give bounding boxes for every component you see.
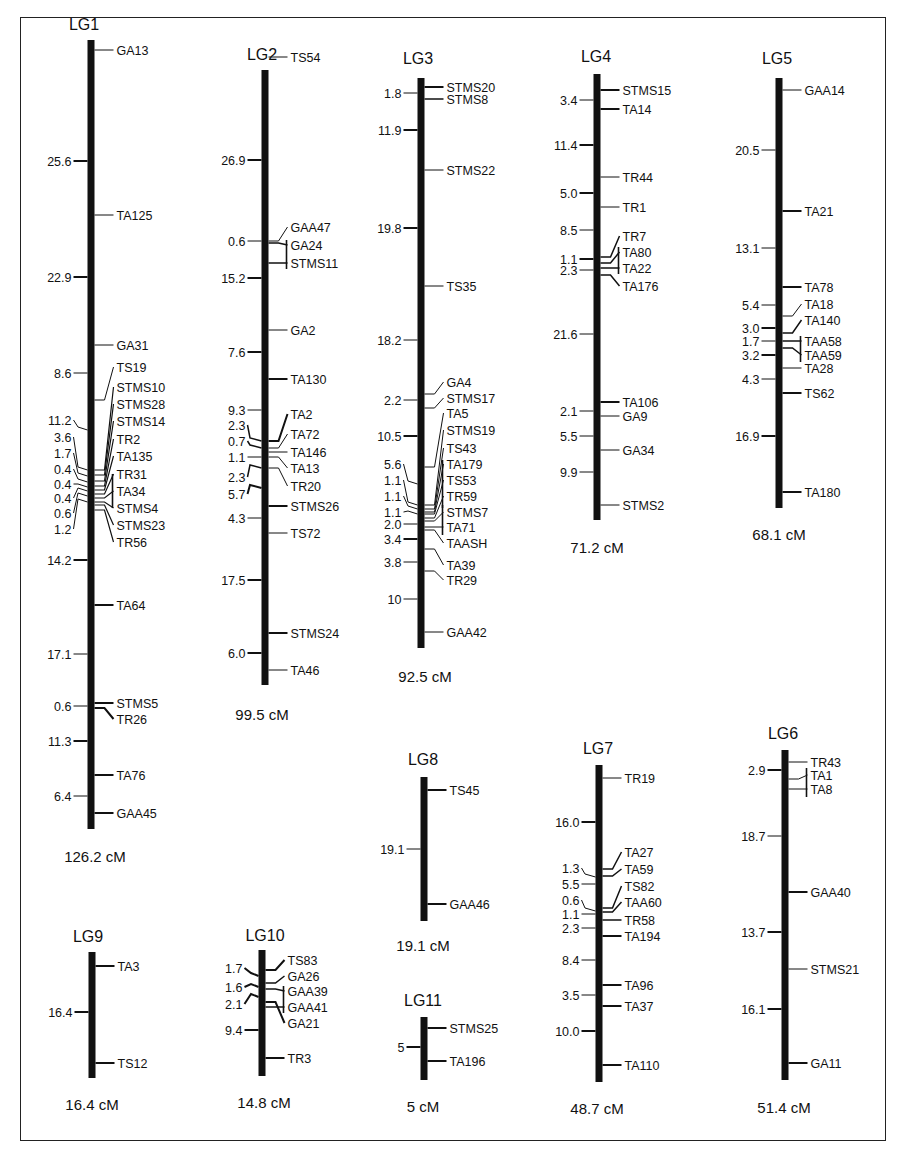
marker-label: TR58 bbox=[625, 914, 656, 928]
marker-label: TR1 bbox=[623, 201, 647, 215]
chromosome-bar bbox=[421, 1017, 428, 1080]
distance-label: 13.1 bbox=[735, 242, 759, 256]
distance-label: 1.1 bbox=[562, 908, 579, 922]
distance-connector bbox=[248, 465, 262, 477]
distance-label: 1.8 bbox=[384, 87, 401, 101]
marker-connector bbox=[603, 869, 622, 876]
distance-label: 16.4 bbox=[48, 1006, 72, 1020]
marker-label: STMS8 bbox=[447, 93, 489, 107]
distance-label: 0.4 bbox=[54, 463, 71, 477]
distance-label: 10 bbox=[388, 593, 402, 607]
marker-label: TAA58 bbox=[805, 335, 842, 349]
marker-label: TS12 bbox=[118, 1057, 148, 1071]
marker-label: TAA59 bbox=[805, 349, 842, 363]
group-total-length: 14.8 cM bbox=[237, 1094, 290, 1111]
marker-label: TA8 bbox=[811, 783, 833, 797]
distance-label: 11.4 bbox=[554, 139, 577, 153]
distance-label: 3.4 bbox=[560, 94, 577, 108]
distance-label: 13.7 bbox=[741, 926, 765, 940]
marker-connector bbox=[425, 413, 444, 467]
distance-label: 1.7 bbox=[54, 447, 71, 461]
distance-connector bbox=[248, 425, 262, 441]
group-total-length: 126.2 cM bbox=[64, 848, 126, 865]
marker-connector bbox=[95, 708, 114, 719]
marker-label: TA21 bbox=[805, 205, 834, 219]
distance-connector bbox=[74, 437, 88, 470]
marker-label: TA78 bbox=[805, 281, 834, 295]
marker-label: GAA45 bbox=[117, 807, 157, 821]
group-title: LG4 bbox=[581, 48, 611, 65]
marker-connector bbox=[266, 1002, 285, 1023]
marker-label: GA4 bbox=[447, 376, 472, 390]
marker-label: TR44 bbox=[623, 171, 654, 185]
marker-label: TA2 bbox=[291, 408, 313, 422]
marker-label: GA9 bbox=[623, 410, 648, 424]
marker-label: TS19 bbox=[117, 361, 147, 375]
distance-label: 0.4 bbox=[54, 492, 71, 506]
distance-label: 5 bbox=[398, 1041, 405, 1055]
linkage-group-lg8: LG819.1TS45GAA4619.1 cM bbox=[380, 751, 490, 954]
distance-label: 6.0 bbox=[228, 647, 245, 661]
marker-connector bbox=[425, 530, 444, 543]
distance-label: 5.7 bbox=[228, 488, 245, 502]
distance-connector bbox=[248, 441, 262, 448]
marker-label: TR29 bbox=[447, 574, 478, 588]
linkage-group-lg1: LG125.622.98.611.23.61.70.40.40.40.61.21… bbox=[47, 16, 165, 865]
marker-label: TR59 bbox=[447, 490, 478, 504]
distance-label: 9.9 bbox=[560, 466, 577, 480]
linkage-map: LG125.622.98.611.23.61.70.40.40.40.61.21… bbox=[0, 0, 904, 1167]
linkage-group-lg7: LG716.01.35.50.61.12.38.43.510.0TR19TA27… bbox=[555, 740, 662, 1117]
chromosome-bar bbox=[421, 777, 428, 921]
marker-label: GAA46 bbox=[450, 898, 490, 912]
marker-connector bbox=[425, 549, 444, 565]
marker-label: TS43 bbox=[447, 442, 477, 456]
marker-label: TA13 bbox=[291, 462, 320, 476]
marker-connector bbox=[269, 227, 288, 241]
marker-connector bbox=[95, 367, 114, 400]
distance-label: 2.3 bbox=[228, 419, 245, 433]
marker-connector bbox=[601, 236, 620, 257]
marker-label: TS35 bbox=[447, 280, 477, 294]
group-total-length: 48.7 cM bbox=[570, 1100, 623, 1117]
marker-connector bbox=[789, 775, 808, 779]
distance-label: 7.6 bbox=[228, 346, 245, 360]
marker-label: TA3 bbox=[118, 960, 140, 974]
distance-connector bbox=[74, 420, 88, 430]
group-title: LG9 bbox=[73, 928, 103, 945]
linkage-group-lg4: LG43.411.45.08.51.12.321.62.15.59.9STMS1… bbox=[553, 48, 671, 556]
distance-label: 5.6 bbox=[384, 458, 401, 472]
marker-label: GA34 bbox=[623, 444, 655, 458]
marker-label: TA125 bbox=[117, 209, 153, 223]
distance-label: 9.4 bbox=[225, 1024, 242, 1038]
distance-label: 1.7 bbox=[225, 962, 242, 976]
linkage-group-lg3: LG31.811.919.818.22.210.55.61.11.11.12.0… bbox=[377, 50, 495, 685]
marker-label: STMS24 bbox=[291, 627, 340, 641]
group-total-length: 99.5 cM bbox=[235, 706, 288, 723]
marker-connector bbox=[269, 414, 288, 441]
group-title: LG3 bbox=[403, 50, 433, 67]
chromosome-bar bbox=[262, 70, 269, 685]
distance-label: 1.1 bbox=[384, 490, 401, 504]
linkage-group-lg5: LG520.513.15.43.01.73.24.316.9GAA14TA21T… bbox=[735, 50, 845, 543]
marker-label: TAA60 bbox=[625, 896, 662, 910]
distance-label: 4.3 bbox=[742, 373, 759, 387]
chromosome-bar bbox=[782, 750, 789, 1080]
marker-label: STMS15 bbox=[623, 84, 672, 98]
distance-label: 1.2 bbox=[54, 523, 71, 537]
marker-label: TS83 bbox=[288, 954, 318, 968]
distance-label: 1.6 bbox=[225, 981, 242, 995]
distance-label: 16.1 bbox=[741, 1003, 765, 1017]
linkage-group-lg10: LG101.71.62.19.4TS83GA26GAA39GAA41GA21TR… bbox=[225, 927, 328, 1111]
group-title: LG8 bbox=[408, 751, 438, 768]
distance-label: 1.7 bbox=[742, 335, 759, 349]
marker-label: GAA42 bbox=[447, 626, 487, 640]
distance-connector bbox=[245, 984, 259, 987]
group-total-length: 19.1 cM bbox=[396, 937, 449, 954]
distance-label: 8.5 bbox=[560, 224, 577, 238]
chromosome-bar bbox=[259, 950, 266, 1076]
marker-label: TA1 bbox=[811, 769, 833, 783]
distance-label: 11.9 bbox=[378, 124, 401, 138]
group-title: LG11 bbox=[404, 992, 442, 1009]
distance-label: 2.3 bbox=[560, 264, 577, 278]
distance-label: 19.1 bbox=[380, 843, 404, 857]
